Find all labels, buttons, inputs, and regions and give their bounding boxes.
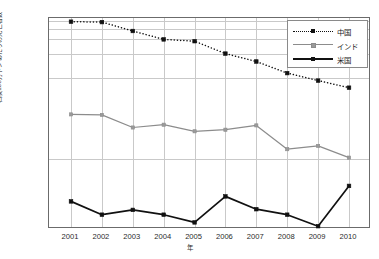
data-point-marker: [317, 144, 320, 147]
data-point-marker: [193, 221, 197, 225]
series-インド: [69, 113, 350, 159]
series-米国: [69, 184, 351, 228]
data-point-marker: [255, 207, 259, 211]
data-point-marker: [100, 113, 103, 116]
data-point-marker: [100, 213, 104, 217]
data-point-marker: [131, 126, 134, 129]
y-axis-title: 石炭100万トンあたりの死亡者数: [0, 0, 3, 138]
data-point-marker: [69, 200, 73, 204]
legend-item-usa[interactable]: 米国: [292, 52, 363, 66]
data-point-marker: [255, 60, 259, 64]
data-point-marker: [193, 39, 197, 43]
legend-label-china: 中国: [334, 26, 351, 37]
chart-legend[interactable]: 中国 インド 米国: [287, 20, 368, 68]
data-point-marker: [255, 124, 258, 127]
legend-swatch-gray-line-icon: [292, 40, 334, 51]
data-point-marker: [69, 113, 72, 116]
data-point-marker: [285, 71, 289, 75]
legend-item-india[interactable]: インド: [292, 38, 363, 52]
legend-label-india: インド: [334, 40, 358, 51]
chart-figure: 石炭100万トンあたりの死亡者数 6.05.04.03.02.01.00.1 2…: [0, 0, 379, 259]
legend-swatch-bold-line-icon: [292, 54, 334, 65]
data-point-marker: [100, 20, 104, 24]
data-point-marker: [162, 213, 166, 217]
data-point-marker: [193, 130, 196, 133]
data-point-marker: [347, 156, 350, 159]
legend-item-china[interactable]: 中国: [292, 24, 363, 38]
legend-swatch-dotted-line-icon: [292, 26, 334, 37]
data-point-marker: [316, 224, 320, 228]
x-tick-label: 2010: [328, 232, 368, 241]
data-point-marker: [224, 52, 228, 56]
data-point-marker: [131, 29, 135, 33]
legend-label-usa: 米国: [334, 54, 351, 65]
data-point-marker: [162, 38, 166, 42]
x-axis-title: 年: [0, 243, 379, 252]
data-point-marker: [224, 128, 227, 131]
data-point-marker: [131, 208, 135, 212]
data-point-marker: [69, 20, 73, 24]
data-point-marker: [316, 79, 320, 83]
data-point-marker: [347, 184, 351, 188]
data-point-marker: [162, 123, 165, 126]
data-point-marker: [224, 195, 228, 199]
data-point-marker: [285, 213, 289, 217]
data-point-marker: [347, 86, 351, 90]
data-point-marker: [286, 148, 289, 151]
